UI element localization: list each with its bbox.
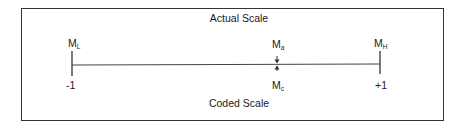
m-low-label: ML bbox=[68, 37, 80, 50]
actual-scale-label: Actual Scale bbox=[210, 12, 268, 24]
m-actual-label: Ma bbox=[272, 38, 284, 51]
m-coded-label: Mc bbox=[272, 79, 284, 92]
coded-minus-one-label: -1 bbox=[66, 79, 75, 91]
coded-scale-label: Coded Scale bbox=[209, 97, 269, 109]
coded-plus-one-label: +1 bbox=[375, 79, 387, 91]
m-high-label: MH bbox=[374, 37, 387, 50]
